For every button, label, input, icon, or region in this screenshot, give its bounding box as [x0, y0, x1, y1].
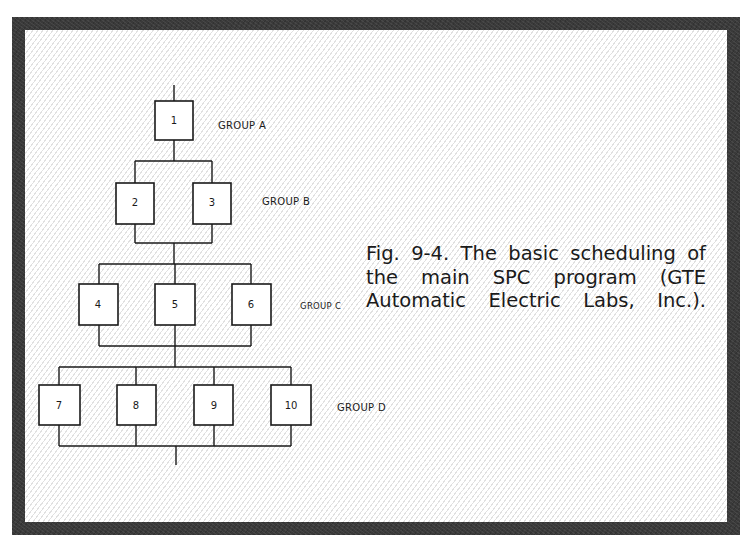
- box-label: 3: [209, 197, 215, 208]
- box-label: 7: [56, 400, 62, 411]
- box-label: 5: [172, 299, 178, 310]
- program-box-3: 3: [193, 183, 231, 224]
- program-box-1: 1: [155, 101, 193, 140]
- box-label: 8: [133, 400, 139, 411]
- program-box-8: 8: [117, 385, 156, 425]
- program-box-9: 9: [194, 385, 233, 425]
- group-a-label: GROUP A: [218, 120, 266, 131]
- group-c-label: GROUP C: [300, 301, 341, 311]
- figure-caption: Fig. 9-4. The basic scheduling of the ma…: [366, 242, 706, 313]
- program-box-2: 2: [116, 183, 154, 224]
- box-label: 6: [248, 299, 254, 310]
- group-b-label: GROUP B: [262, 196, 310, 207]
- caption-line-2: the main SPC program (GTE: [366, 266, 706, 290]
- program-box-10: 10: [271, 385, 311, 425]
- program-box-7: 7: [39, 385, 80, 425]
- program-box-5: 5: [155, 284, 195, 325]
- caption-line-1: Fig. 9-4. The basic scheduling of: [366, 242, 706, 266]
- caption-line-3: Automatic Electric Labs, Inc.).: [366, 289, 706, 313]
- box-label: 9: [211, 400, 217, 411]
- box-label: 4: [95, 299, 101, 310]
- program-box-6: 6: [232, 284, 271, 325]
- box-label: 2: [132, 197, 138, 208]
- group-d-label: GROUP D: [337, 402, 386, 413]
- box-label: 10: [285, 400, 298, 411]
- program-box-4: 4: [79, 284, 118, 325]
- box-label: 1: [171, 115, 177, 126]
